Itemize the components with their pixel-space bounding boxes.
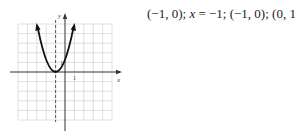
parabola-graph: x y 1 1: [0, 0, 140, 136]
y-axis-label: y: [57, 12, 62, 20]
answer-text: (−1, 0); x = −1; (−1, 0); (0, 1): [147, 6, 295, 22]
x-axis: [10, 70, 122, 74]
x-axis-label: x: [116, 76, 121, 84]
y-intercept: (0, 1): [272, 6, 295, 21]
x-tick-label: 1: [73, 75, 76, 81]
vertex: (−1, 0): [147, 6, 183, 21]
x-intercept: (−1, 0): [230, 6, 266, 21]
axis-of-symmetry-text: = −1: [195, 6, 223, 21]
